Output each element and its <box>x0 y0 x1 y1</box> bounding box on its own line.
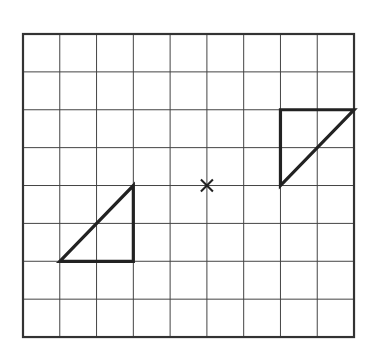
grid-lines <box>23 34 354 337</box>
rotation-grid-diagram <box>0 0 365 353</box>
